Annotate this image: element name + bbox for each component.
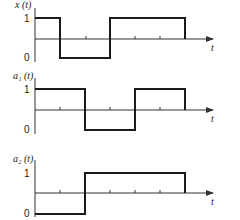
ylabel-x: x (t) [14,0,32,11]
level-low-x: 0 [24,52,30,63]
xlabel-x: t [211,42,214,53]
xlabel-a2: t [211,196,214,207]
level-low-a1: 0 [24,124,30,135]
panel-a1: a₁ (t) 1 0 t [13,70,214,135]
panel-a2: a₂ (t) 1 0 t [13,153,214,219]
waveform-x [35,18,185,58]
ylabel-a2: a₂ (t) [13,153,34,165]
level-high-x: 1 [24,13,30,24]
ylabel-a1: a₁ (t) [13,70,34,82]
xlabel-a1: t [211,113,214,124]
level-high-a1: 1 [24,84,30,95]
level-high-a2: 1 [24,168,30,179]
panel-x: x (t) 1 0 t [14,0,214,63]
level-low-a2: 0 [24,208,30,219]
